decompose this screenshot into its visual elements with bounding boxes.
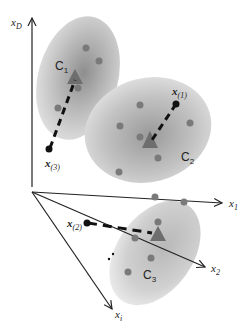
sample-label-x2: x(2): [66, 217, 82, 232]
noise-dot: [112, 253, 114, 255]
axis-x1: [32, 192, 222, 203]
sample-label-x3: x(3): [44, 157, 60, 172]
cluster-diagram: xD x1 x2 xi C1 C2 C3 x(3): [0, 0, 251, 332]
axis-label-xd: xD: [10, 16, 22, 31]
noise-dot: [108, 258, 110, 260]
axis-label-x2: x2: [210, 262, 220, 277]
axis-label-xi: xi: [114, 308, 122, 323]
axis-label-x1: x1: [228, 197, 238, 212]
cluster-c3: [91, 184, 220, 323]
